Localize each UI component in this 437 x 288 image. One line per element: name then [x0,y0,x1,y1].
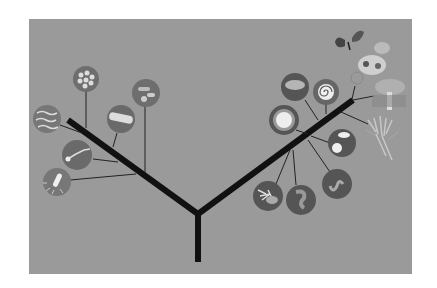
spirilla-icon [33,105,61,133]
cocci-cluster-icon [73,66,99,92]
diatom-icon [328,129,356,157]
worm-like-protist-icon [322,169,352,199]
left-clade-leaves [33,66,160,196]
animals-cluster-icon [351,42,390,84]
butterfly-icon [335,31,364,50]
right-clade-leaves [253,31,406,215]
coral-like-protist-icon [253,181,283,211]
foraminifera-shell-icon [313,79,339,105]
curled-protist-icon [286,185,316,215]
radiolarian-icon [269,105,299,135]
flagellated-bacterium-icon [62,140,92,170]
flagellated-rod-icon [43,168,71,196]
rod-chain-icon [132,79,160,107]
capsule-rod-icon [107,105,135,133]
left-branch [68,120,198,214]
mushroom-icon [372,79,406,110]
amoeba-icon [281,73,309,101]
plant-roots-icon [366,116,398,160]
tree-of-life-diagram [0,0,437,288]
